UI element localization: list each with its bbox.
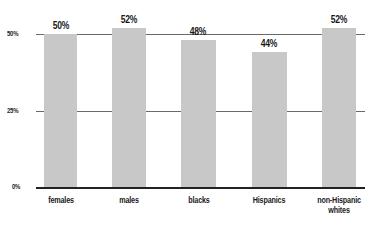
bar-hispanics [252, 52, 287, 188]
bar-males [112, 28, 146, 188]
bar-females [44, 34, 77, 188]
category-label-hispanics: Hispanics [241, 195, 297, 205]
value-label-hispanics: 44% [250, 37, 289, 49]
value-label-females: 50% [42, 19, 81, 31]
value-label-blacks: 48% [179, 25, 218, 37]
category-label-males: males [101, 195, 157, 205]
y-tick-25: 25% [7, 106, 18, 115]
value-label-non-hispanic-whites: 52% [320, 13, 359, 25]
bar-chart: 50% 25% 0% 50% 52% 48% 44% 52% females m… [0, 0, 383, 228]
x-axis-baseline [36, 187, 365, 189]
y-tick-50: 50% [7, 29, 18, 38]
category-label-line2: whites [311, 205, 367, 215]
bar-non-hispanic-whites [322, 28, 356, 188]
y-tick-0: 0% [12, 182, 20, 191]
category-label-blacks: blacks [171, 195, 227, 205]
bar-blacks [181, 40, 216, 188]
category-label-line1: non-Hispanic [311, 195, 367, 205]
value-label-males: 52% [110, 13, 149, 25]
category-label-females: females [33, 195, 89, 205]
category-label-non-hispanic-whites: non-Hispanic whites [311, 195, 367, 215]
